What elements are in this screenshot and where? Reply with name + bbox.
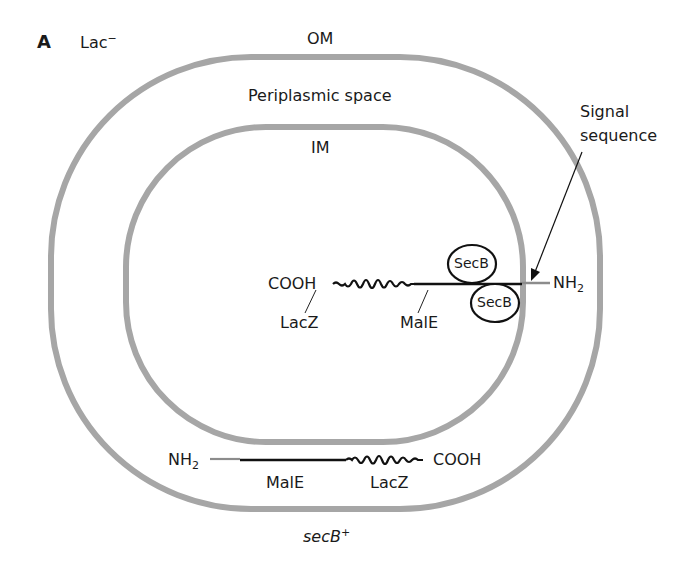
inner-membrane-label: IM bbox=[311, 140, 330, 156]
signal-label-line1: Signal bbox=[580, 104, 629, 120]
signal-label-line2: sequence bbox=[580, 128, 657, 144]
lacz-leader-line bbox=[305, 290, 316, 313]
periplasmic-fusion-protein bbox=[210, 456, 423, 464]
genotype-superscript: + bbox=[341, 526, 350, 539]
panel-letter: A bbox=[37, 33, 51, 51]
lacz-label-top: LacZ bbox=[280, 315, 318, 331]
genotype-text: secB bbox=[303, 527, 341, 546]
cooh-terminus-bottom: COOH bbox=[433, 452, 481, 468]
nh2-terminus-bottom: NH2 bbox=[168, 452, 199, 471]
signal-arrow bbox=[531, 152, 582, 281]
lacz-wavy-segment bbox=[333, 280, 415, 288]
genotype-label: secB+ bbox=[303, 527, 350, 545]
male-label-bottom: MalE bbox=[266, 475, 304, 491]
secb-label-1: SecB bbox=[454, 256, 489, 270]
cytoplasmic-fusion-protein bbox=[305, 245, 550, 322]
cooh-terminus-top: COOH bbox=[268, 276, 316, 292]
periplasmic-space-label: Periplasmic space bbox=[248, 88, 392, 104]
phenotype-label: Lac− bbox=[80, 33, 117, 51]
secb-label-2: SecB bbox=[477, 295, 512, 309]
nh2-text-bottom: NH bbox=[168, 450, 192, 469]
lacz-label-bottom: LacZ bbox=[370, 475, 408, 491]
phenotype-text: Lac bbox=[80, 33, 108, 52]
nh2-subscript: 2 bbox=[577, 282, 584, 295]
nh2-text: NH bbox=[553, 273, 577, 292]
outer-membrane-label: OM bbox=[307, 31, 333, 47]
lacz-wavy-segment-bottom bbox=[346, 456, 423, 464]
phenotype-superscript: − bbox=[108, 32, 117, 45]
male-leader-line bbox=[418, 290, 428, 313]
nh2-subscript-bottom: 2 bbox=[192, 459, 199, 472]
nh2-terminus-top: NH2 bbox=[553, 275, 584, 294]
male-label-top: MalE bbox=[400, 315, 438, 331]
